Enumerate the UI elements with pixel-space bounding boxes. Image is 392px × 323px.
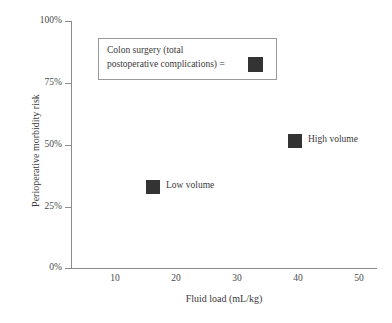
scatter-chart: 100% 75% 50% 25% 0% 10 20 30 40 50 Perio… — [0, 0, 392, 323]
y-axis-line — [71, 21, 72, 269]
data-point-high-volume[interactable] — [288, 134, 302, 148]
data-point-low-volume[interactable] — [146, 180, 160, 194]
legend-label-line-2: postoperative complications) = — [107, 59, 225, 69]
y-axis-tick-label-25: 25% — [22, 201, 62, 211]
y-axis-title: Perioperative morbidity risk — [30, 56, 41, 246]
y-axis-tick-label-0: 0% — [22, 262, 62, 272]
x-axis-tick-label-50: 50 — [339, 273, 379, 283]
x-axis-tick-label-30: 30 — [217, 273, 257, 283]
x-axis-title: Fluid load (mL/kg) — [71, 293, 377, 304]
legend-swatch-square — [248, 57, 263, 72]
chart-legend: Colon surgery (total postoperative compl… — [98, 38, 277, 80]
y-axis-tick-75 — [65, 83, 71, 84]
y-axis-tick-label-75: 75% — [22, 77, 62, 87]
y-axis-tick-50 — [65, 145, 71, 146]
x-axis-line — [71, 268, 377, 269]
y-axis-tick-label-50: 50% — [22, 139, 62, 149]
y-axis-tick-100 — [65, 21, 71, 22]
y-axis-tick-25 — [65, 207, 71, 208]
x-axis-tick-label-10: 10 — [95, 273, 135, 283]
legend-label-line-1: Colon surgery (total — [107, 45, 183, 55]
y-axis-tick-0 — [65, 268, 71, 269]
data-point-label-high-volume: High volume — [308, 134, 358, 144]
legend-label: Colon surgery (total postoperative compl… — [107, 44, 247, 71]
x-axis-tick-label-20: 20 — [156, 273, 196, 283]
x-axis-tick-label-40: 40 — [278, 273, 318, 283]
data-point-label-low-volume: Low volume — [166, 180, 214, 190]
y-axis-tick-label-100: 100% — [22, 15, 62, 25]
